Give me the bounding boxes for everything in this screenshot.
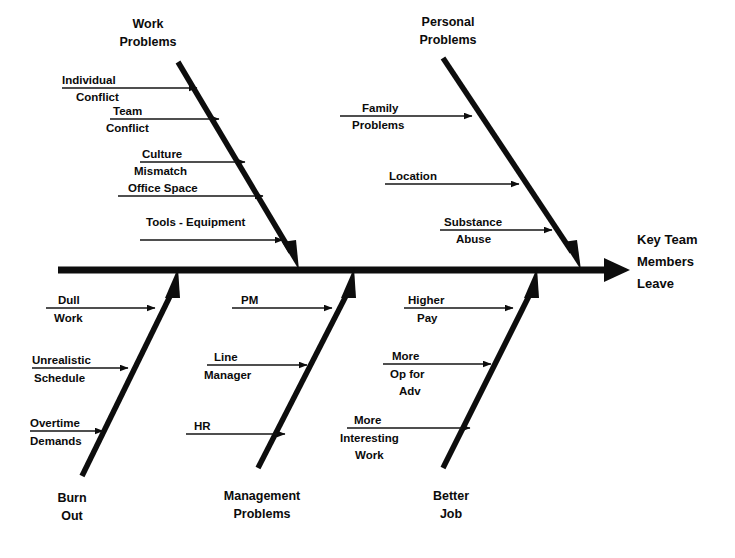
spine-arrowhead xyxy=(604,258,630,282)
category-management-problems: Management Problems PM Line Manager HR xyxy=(186,268,356,521)
cause-culture-mismatch: Culture Mismatch xyxy=(134,148,245,177)
category-work-problems: Work Problems Individual Conflict Team C… xyxy=(62,17,299,270)
cause-line-manager: Line Manager xyxy=(204,351,307,381)
cause-team-conflict: Team Conflict xyxy=(106,105,219,134)
cause-substance-abuse: Substance Abuse xyxy=(440,216,552,245)
cause-label-line: Line xyxy=(214,351,238,363)
category-label-personal-problems-line-2: Problems xyxy=(420,33,477,47)
cause-label-conflict-1: Conflict xyxy=(76,91,119,103)
category-label-better-job-line-2: Job xyxy=(440,507,463,521)
category-label-burn-out-line-2: Out xyxy=(61,509,83,523)
effect-line-3: Leave xyxy=(637,276,674,291)
cause-unrealistic-schedule: Unrealistic Schedule xyxy=(32,354,128,384)
cause-label-more-2: More xyxy=(354,414,381,426)
category-better-job: Better Job Higher Pay More Op for Adv Mo… xyxy=(340,268,539,521)
cause-label-problems: Problems xyxy=(352,119,404,131)
cause-individual-conflict: Individual Conflict xyxy=(62,74,197,103)
category-personal-problems: Personal Problems Family Problems Locati… xyxy=(340,15,581,270)
category-burn-out: Burn Out Dull Work Unrealistic Schedule … xyxy=(30,268,180,523)
cause-overtime-demands: Overtime Demands xyxy=(30,417,103,447)
fishbone-diagram: Key Team Members Leave Work Problems Ind… xyxy=(0,0,735,558)
effect-label: Key Team Members Leave xyxy=(637,232,697,291)
cause-label-op-for: Op for xyxy=(390,368,425,380)
effect-line-2: Members xyxy=(637,254,694,269)
branch-arrowhead-work-problems xyxy=(282,240,299,270)
cause-label-adv: Adv xyxy=(399,385,421,397)
cause-label-pm: PM xyxy=(241,294,258,306)
effect-line-1: Key Team xyxy=(637,232,697,247)
cause-office-space: Office Space xyxy=(118,182,263,196)
category-label-burn-out-line-1: Burn xyxy=(57,491,86,505)
cause-label-substance: Substance xyxy=(444,216,502,228)
cause-label-demands: Demands xyxy=(30,435,82,447)
cause-label-more-1: More xyxy=(392,350,419,362)
cause-dull-work: Dull Work xyxy=(46,294,155,324)
cause-label-mismatch: Mismatch xyxy=(134,165,187,177)
branch-arrowhead-personal-problems xyxy=(563,240,581,270)
branch-line-management-problems xyxy=(258,288,350,468)
cause-pm: PM xyxy=(232,294,332,308)
cause-label-office-space: Office Space xyxy=(128,182,198,194)
cause-label-pay: Pay xyxy=(417,312,438,324)
category-label-work-problems-line-2: Problems xyxy=(120,35,177,49)
cause-label-higher: Higher xyxy=(408,294,445,306)
cause-location: Location xyxy=(385,170,519,184)
cause-label-tools-equipment: Tools - Equipment xyxy=(146,216,246,228)
branch-line-burn-out xyxy=(82,288,174,476)
cause-label-interesting: Interesting xyxy=(340,432,399,444)
cause-label-schedule: Schedule xyxy=(34,372,85,384)
cause-label-location: Location xyxy=(389,170,437,182)
cause-label-culture: Culture xyxy=(142,148,182,160)
cause-label-work-2: Work xyxy=(355,449,384,461)
cause-more-op-for-adv: More Op for Adv xyxy=(383,350,491,397)
cause-family-problems: Family Problems xyxy=(340,102,472,131)
cause-label-team: Team xyxy=(113,105,142,117)
cause-higher-pay: Higher Pay xyxy=(404,294,513,324)
fishbone-canvas: Key Team Members Leave Work Problems Ind… xyxy=(0,0,735,558)
branch-line-better-job xyxy=(443,288,533,468)
cause-label-dull: Dull xyxy=(58,294,80,306)
cause-label-manager: Manager xyxy=(204,369,252,381)
cause-label-work: Work xyxy=(54,312,83,324)
cause-label-individual: Individual xyxy=(62,74,116,86)
cause-label-unrealistic: Unrealistic xyxy=(32,354,91,366)
category-label-personal-problems-line-1: Personal xyxy=(422,15,475,29)
cause-label-overtime: Overtime xyxy=(30,417,80,429)
cause-hr: HR xyxy=(186,420,285,434)
category-label-management-problems-line-1: Management xyxy=(224,489,301,503)
category-label-better-job-line-1: Better xyxy=(433,489,469,503)
category-label-management-problems-line-2: Problems xyxy=(234,507,291,521)
cause-label-family: Family xyxy=(362,102,399,114)
cause-label-abuse: Abuse xyxy=(456,233,491,245)
cause-tools-equipment: Tools - Equipment xyxy=(140,216,283,240)
cause-label-conflict-2: Conflict xyxy=(106,122,149,134)
cause-label-hr: HR xyxy=(194,420,211,432)
category-label-work-problems-line-1: Work xyxy=(132,17,163,31)
spine-group xyxy=(58,258,630,282)
